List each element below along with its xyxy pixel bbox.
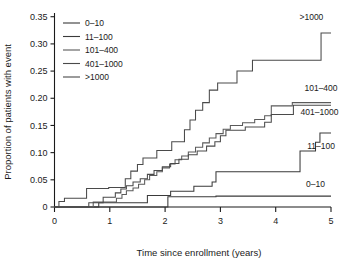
y-tick-label: 0.30 [30,39,48,49]
y-tick-label: 0.35 [30,12,48,22]
chart-figure: 00.050.100.150.200.250.300.35 012345 0–1… [0,0,343,265]
series-end-label: 0–10 [306,179,325,189]
x-tick-label: 4 [273,216,278,226]
series-end-label: >1000 [299,12,323,22]
y-axis-title: Proportion of patients with event [2,44,13,180]
legend-label: >1000 [85,72,109,82]
legend-label: 0–10 [85,18,104,28]
legend-label: 401–1000 [85,59,123,69]
series-end-label: 101–400 [304,83,337,93]
y-tick-label: 0 [42,202,47,212]
cumulative-incidence-chart: 00.050.100.150.200.250.300.35 012345 0–1… [0,0,343,265]
y-tick-label: 0.25 [30,66,48,76]
x-tick-label: 0 [52,216,57,226]
x-axis-title: Time since enrollment (years) [137,247,262,258]
legend-label: 101–400 [85,45,118,55]
y-tick-label: 0.05 [30,175,48,185]
x-tick-label: 3 [218,216,223,226]
x-tick-label: 1 [107,216,112,226]
series-end-label: 401–1000 [301,107,339,117]
y-tick-label: 0.15 [30,121,48,131]
y-tick-label: 0.20 [30,93,48,103]
y-tick-label: 0.10 [30,148,48,158]
series-end-label: 11–100 [307,141,335,151]
legend-label: 11–100 [85,32,113,42]
x-tick-label: 2 [163,216,168,226]
x-tick-label: 5 [328,216,333,226]
